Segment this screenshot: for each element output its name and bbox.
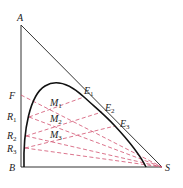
label-E1: E1 xyxy=(83,85,94,98)
label-A: A xyxy=(16,12,24,23)
label-M2: M2 xyxy=(49,113,62,126)
label-B: B xyxy=(9,162,15,173)
label-E2: E2 xyxy=(104,102,115,115)
label-F: F xyxy=(8,90,16,101)
label-M3: M3 xyxy=(49,129,62,142)
dashed-lines xyxy=(21,95,162,167)
label-M1: M1 xyxy=(49,97,62,110)
label-R3: R3 xyxy=(6,143,17,156)
ternary-diagram: A B S F R1 R2 R3 E1 E2 E3 M1 M2 M3 xyxy=(0,0,183,188)
label-S: S xyxy=(165,162,170,173)
label-R1: R1 xyxy=(6,111,17,124)
label-R2: R2 xyxy=(6,130,17,143)
